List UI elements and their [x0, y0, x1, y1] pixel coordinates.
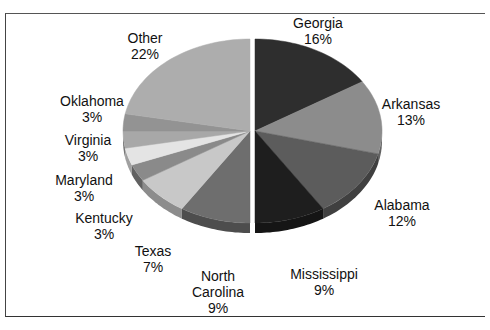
label-other: Other22% — [127, 30, 162, 62]
label-oklahoma: Oklahoma3% — [60, 93, 124, 125]
label-north-carolina: NorthCarolina9% — [192, 268, 244, 316]
label-alabama: Alabama12% — [374, 197, 429, 229]
label-kentucky: Kentucky3% — [75, 210, 133, 242]
label-arkansas: Arkansas13% — [382, 96, 440, 128]
label-virginia: Virginia3% — [65, 132, 111, 164]
label-georgia: Georgia16% — [293, 15, 343, 47]
label-mississippi: Mississippi9% — [290, 266, 358, 298]
label-maryland: Maryland3% — [55, 172, 113, 204]
pie-slices — [123, 39, 382, 223]
pie-chart — [0, 0, 490, 330]
label-texas: Texas7% — [135, 243, 172, 275]
